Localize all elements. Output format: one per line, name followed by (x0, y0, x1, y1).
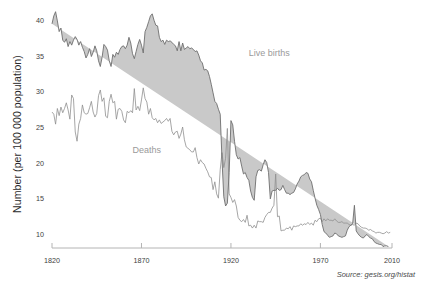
y-axis-tick-label: 40 (22, 16, 44, 25)
chart-plot-area (0, 0, 421, 283)
y-axis-tick-label: 35 (22, 52, 44, 61)
y-axis-tick-label: 10 (22, 230, 44, 239)
series-band-fill (52, 12, 388, 247)
y-axis-tick-label: 20 (22, 159, 44, 168)
x-axis-line (52, 243, 392, 248)
y-axis-tick-label: 25 (22, 123, 44, 132)
x-axis-tick-label: 1970 (300, 256, 340, 265)
chart-figure: Number (per 100 000 population) 10152025… (0, 0, 421, 283)
y-axis-tick-label: 30 (22, 87, 44, 96)
series-annotation-label: Live births (249, 48, 290, 58)
source-note: Source: gesis.org/histat (337, 270, 415, 279)
series-line-deaths (52, 88, 390, 234)
y-axis-tick-label: 15 (22, 194, 44, 203)
x-axis-tick-label: 1920 (211, 256, 251, 265)
x-axis-tick-label: 1870 (121, 256, 161, 265)
series-annotation-label: Deaths (133, 145, 162, 155)
x-axis-tick-label: 2010 (372, 256, 412, 265)
x-axis-tick-label: 1820 (32, 256, 72, 265)
